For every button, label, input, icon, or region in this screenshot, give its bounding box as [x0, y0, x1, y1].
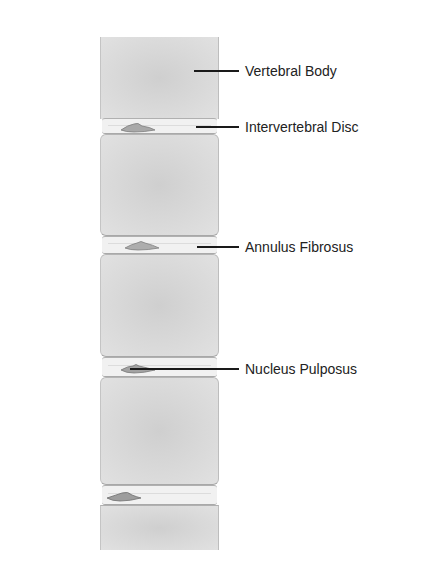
- leader-line-nucleus-pulposus: [130, 368, 239, 370]
- nucleus-pulposus-shape: [120, 122, 156, 133]
- label-annulus-fibrosus: Annulus Fibrosus: [245, 239, 353, 255]
- intervertebral-disc-3: [102, 357, 217, 377]
- label-intervertebral-disc: Intervertebral Disc: [245, 119, 359, 135]
- label-nucleus-pulposus: Nucleus Pulposus: [245, 361, 357, 377]
- label-vertebral-body: Vertebral Body: [245, 63, 337, 79]
- leader-line-vertebral-body: [194, 70, 239, 72]
- vertebral-body-3: [100, 254, 219, 357]
- vertebral-body-2: [100, 134, 219, 236]
- intervertebral-disc-2: [102, 236, 217, 254]
- intervertebral-disc-4: [102, 485, 217, 505]
- vertebral-body-4: [100, 377, 219, 485]
- vertebral-body-1: [100, 37, 219, 119]
- nucleus-pulposus-shape: [124, 240, 160, 251]
- vertebral-body-5: [100, 505, 219, 550]
- leader-line-annulus-fibrosus: [197, 246, 239, 248]
- leader-line-intervertebral-disc: [196, 126, 239, 128]
- nucleus-pulposus-shape: [106, 491, 142, 502]
- vertebral-column: [100, 37, 219, 550]
